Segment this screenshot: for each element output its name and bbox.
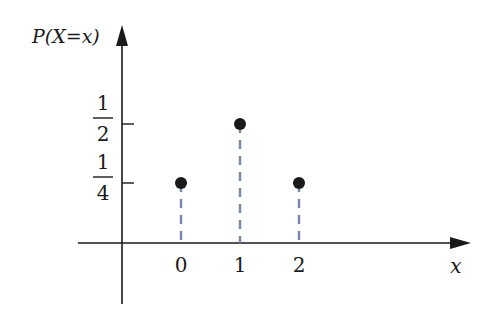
point-x0: [175, 177, 187, 189]
y-tick-quarter-numerator: 1: [97, 150, 110, 174]
x-tick-label-1: 1: [234, 253, 247, 277]
x-tick-label-0: 0: [175, 253, 188, 277]
x-tick-label-2: 2: [293, 253, 306, 277]
x-axis-arrow-icon: [450, 237, 471, 249]
y-tick-quarter-denominator: 4: [97, 181, 110, 205]
x-axis-label: x: [450, 254, 461, 278]
y-axis-arrow-icon: [116, 25, 128, 46]
y-tick-half-numerator: 1: [97, 91, 110, 115]
point-x2: [293, 177, 305, 189]
y-tick-half-denominator: 2: [97, 122, 110, 146]
probability-stem-chart: P(X=x) 1 2 1 4 0 1 2 x: [0, 0, 493, 322]
point-x1: [234, 118, 246, 130]
y-axis-label: P(X=x): [31, 25, 100, 47]
